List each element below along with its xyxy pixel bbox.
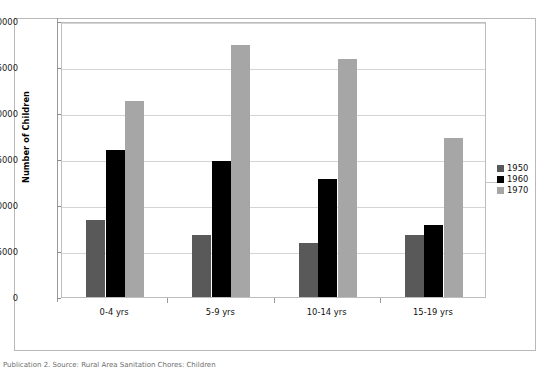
bar (86, 220, 105, 298)
y-tick-label: 15000 (0, 156, 18, 164)
y-tick-mark (57, 68, 61, 69)
y-tick-label: 30000 (0, 18, 18, 26)
legend-swatch-icon (497, 187, 504, 194)
y-tick-mark (57, 114, 61, 115)
y-tick-label: 0 (0, 294, 18, 302)
x-tick-mark (167, 298, 168, 303)
y-tick-label: 10000 (0, 202, 18, 210)
y-tick-mark (57, 160, 61, 161)
x-tick-mark (274, 298, 275, 303)
bar (212, 161, 231, 298)
legend-swatch-icon (497, 176, 504, 183)
plot-wrapper: 050001000015000200002500030000 0-4 yrs5-… (61, 22, 486, 302)
legend-item: 1950 (497, 163, 541, 174)
legend-label: 1970 (507, 186, 528, 194)
x-tick-mark (380, 298, 381, 303)
bar (299, 243, 318, 298)
figure-container: Number of Children 050001000015000200002… (0, 0, 548, 373)
legend-item: 1960 (497, 174, 541, 185)
legend-item: 1970 (497, 185, 541, 196)
y-axis-title: Number of Children (21, 67, 31, 207)
y-tick-mark (57, 298, 61, 299)
figure-caption: Publication 2. Source: Rural Area Sanita… (3, 361, 403, 369)
x-category-label: 0-4 yrs (61, 308, 167, 317)
bar (444, 138, 463, 298)
x-category-label: 10-14 yrs (274, 308, 380, 317)
legend-label: 1950 (507, 164, 528, 172)
bar (231, 45, 250, 298)
bar (318, 179, 337, 298)
bar (338, 59, 357, 298)
bar (424, 225, 443, 298)
bar (106, 150, 125, 298)
bar (405, 235, 424, 298)
y-tick-mark (57, 22, 61, 23)
y-tick-label: 25000 (0, 64, 18, 72)
bars-group (62, 23, 486, 298)
y-tick-label: 20000 (0, 110, 18, 118)
plot-area (61, 22, 486, 298)
x-category-label: 5-9 yrs (167, 308, 273, 317)
legend-swatch-icon (497, 165, 504, 172)
legend: 195019601970 (497, 163, 541, 196)
y-tick-mark (57, 252, 61, 253)
bar (125, 101, 144, 298)
x-category-label: 15-19 yrs (380, 308, 486, 317)
y-tick-label: 5000 (0, 248, 18, 256)
y-tick-mark (57, 206, 61, 207)
legend-label: 1960 (507, 175, 528, 183)
bar (192, 235, 211, 298)
